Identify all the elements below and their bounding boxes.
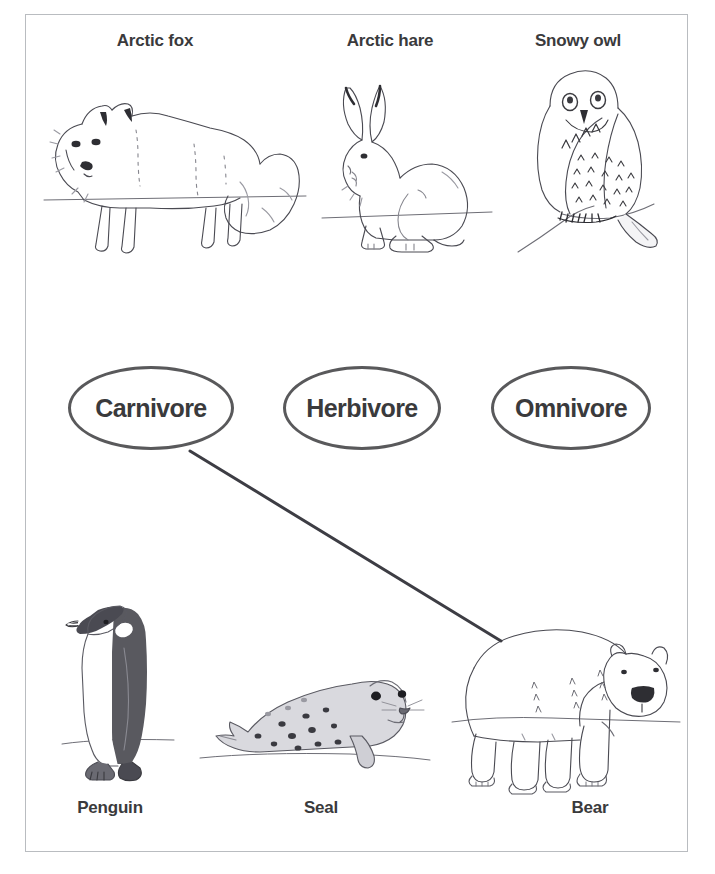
bottom-animal-label-bear: Bear [571,798,608,818]
arctic-fox-illustration[interactable] [44,88,306,256]
bear-illustration[interactable] [452,624,680,796]
category-oval-omnivore[interactable]: Omnivore [491,366,651,450]
worksheet-page: Arctic fox [0,0,715,874]
bottom-animal-label-seal: Seal [304,798,338,818]
top-animal-label-snowy-owl: Snowy owl [535,31,621,51]
top-animal-label-arctic-fox: Arctic fox [117,31,193,51]
penguin-illustration[interactable] [62,592,174,788]
seal-illustration[interactable] [200,652,430,788]
snowy-owl-illustration[interactable] [514,62,666,262]
top-animal-label-arctic-hare: Arctic hare [347,31,434,51]
category-label-omnivore: Omnivore [515,394,627,423]
arctic-hare-illustration[interactable] [322,78,492,258]
category-oval-carnivore[interactable]: Carnivore [68,366,234,450]
category-label-carnivore: Carnivore [95,394,206,423]
category-label-herbivore: Herbivore [306,394,417,423]
bottom-animal-label-penguin: Penguin [77,798,143,818]
category-oval-herbivore[interactable]: Herbivore [283,366,441,450]
